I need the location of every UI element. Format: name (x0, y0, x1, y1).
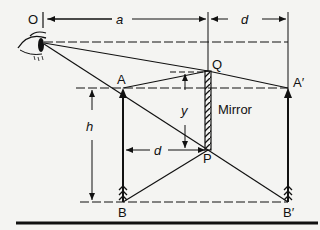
label-point-b: B (118, 205, 127, 220)
label-mirror: Mirror (218, 102, 253, 117)
label-point-q: Q (212, 57, 222, 72)
eye-icon (18, 32, 46, 61)
object-arrow-ab (119, 88, 127, 202)
mirror-diagram: O a d A A′ Q P Mirror y h d B B′ (0, 0, 320, 230)
label-point-a: A (117, 72, 126, 87)
label-point-a-image: A′ (293, 75, 305, 90)
label-a: a (116, 12, 123, 27)
label-o: O (28, 12, 38, 27)
image-arrow-ab (284, 88, 292, 202)
label-d-mid: d (154, 143, 162, 158)
label-point-b-image: B′ (283, 205, 295, 220)
light-rays (44, 43, 288, 202)
label-h: h (86, 119, 93, 134)
mirror (205, 71, 211, 150)
label-y: y (180, 103, 189, 118)
label-point-p: P (203, 151, 212, 166)
label-d-top: d (241, 12, 249, 27)
dimension-a (43, 12, 206, 28)
